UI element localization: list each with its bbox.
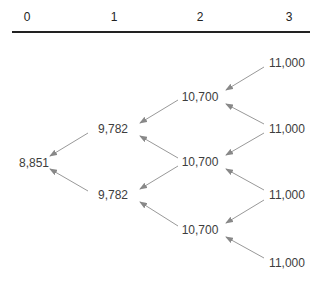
node-t3-1: 11,000 [269, 122, 305, 136]
tree-arrows [0, 0, 322, 281]
node-t3-0: 11,000 [269, 56, 305, 70]
node-t2-1: 10,700 [182, 155, 219, 169]
node-t1-0: 9,782 [98, 122, 128, 136]
node-t3-3: 11,000 [269, 256, 305, 270]
node-t1-1: 9,782 [98, 188, 128, 202]
node-t0-0: 8,851 [19, 156, 49, 170]
node-t2-0: 10,700 [182, 90, 219, 104]
node-t3-2: 11,000 [269, 188, 305, 202]
node-t2-2: 10,700 [182, 223, 219, 237]
